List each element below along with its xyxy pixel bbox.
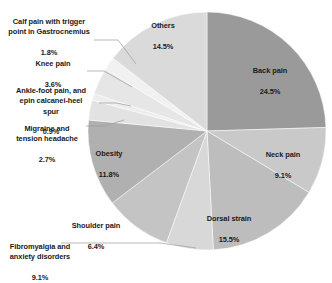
slice-label-back-pain: Back pain 24.5% — [238, 56, 302, 97]
slice-label-obesity-text: Obesity — [96, 149, 123, 158]
outside-label-ankle-foot-text: Ankle-foot pain, and epin calcanei-heel … — [16, 86, 86, 115]
outside-label-fibromyalgia: Fibromyalgia and anxiety disorders 9.1% — [1, 232, 79, 283]
slice-label-obesity: Obesity 11.8% — [79, 139, 139, 180]
slice-label-neck-pain-value: 9.1% — [275, 171, 292, 180]
slice-label-dorsal-strain-text: Dorsal strain — [207, 214, 252, 223]
slice-label-back-pain-value: 24.5% — [260, 87, 281, 96]
outside-label-migraine-text: Migraine and tension headache — [16, 124, 78, 143]
outside-label-migraine-value: 2.7% — [39, 155, 56, 164]
slice-label-others-text: Others — [151, 21, 175, 30]
slice-label-obesity-value: 11.8% — [99, 170, 119, 179]
outside-label-knee-pain-text: Knee pain — [36, 59, 71, 68]
outside-label-migraine: Migraine and tension headache 2.7% — [6, 114, 88, 165]
slice-label-dorsal-strain: Dorsal strain 15.5% — [196, 204, 262, 245]
outside-label-calf-pain-text: Calf pain with trigger point in Gastrocn… — [8, 17, 89, 36]
slice-label-neck-pain-text: Neck pain — [266, 150, 300, 159]
slice-label-others-value: 14.5% — [153, 42, 174, 51]
slice-label-others: Others 14.5% — [137, 11, 189, 52]
slice-label-back-pain-text: Back pain — [253, 66, 287, 75]
outside-label-shoulder-pain-text: Shoulder pain — [72, 221, 121, 230]
outside-label-shoulder-pain-value: 6.4% — [88, 242, 105, 251]
slice-label-neck-pain: Neck pain 9.1% — [252, 140, 314, 181]
outside-label-fibromyalgia-text: Fibromyalgia and anxiety disorders — [10, 242, 70, 261]
outside-label-fibromyalgia-value: 9.1% — [32, 273, 49, 282]
slice-label-dorsal-strain-value: 15.5% — [219, 235, 240, 244]
